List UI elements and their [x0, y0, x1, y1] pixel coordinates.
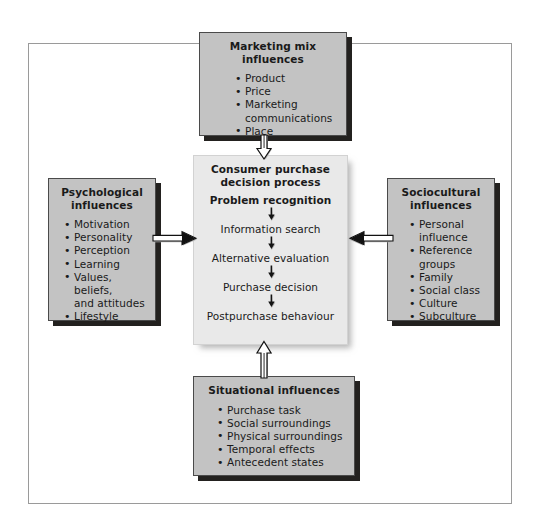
list-item: Personality: [63, 231, 147, 244]
box-title: Consumer purchase decision process: [202, 163, 339, 188]
connector-psychological-to-center: [153, 231, 199, 249]
list-item: Culture: [408, 297, 486, 310]
box-title: Psychological influences: [57, 186, 147, 211]
arrow-down-icon: [266, 236, 277, 251]
arrow-down-icon: [266, 294, 277, 309]
process-step-alternative-evaluation: Alternative evaluation: [202, 252, 339, 264]
arrow-right-icon: [153, 231, 199, 249]
arrow-down-icon: [266, 207, 277, 222]
list-item: Subculture: [408, 310, 486, 323]
connector-sociocultural-to-center: [347, 231, 393, 249]
diagram-frame: Marketing mix influences Product Price M…: [28, 43, 512, 504]
list-item: Reference groups: [408, 244, 486, 270]
sociocultural-influences-box: Sociocultural influences Personal influe…: [387, 178, 495, 321]
list-item: Personal influence: [408, 218, 486, 244]
process-arrow-3: [202, 264, 339, 281]
process-arrow-4: [202, 293, 339, 310]
process-step-purchase-decision: Purchase decision: [202, 281, 339, 293]
process-arrow-2: [202, 235, 339, 252]
list-item: Temporal effects: [216, 443, 346, 456]
list-item: Product: [234, 72, 338, 85]
list-item: Social surroundings: [216, 417, 346, 430]
process-arrow-1: [202, 206, 339, 223]
sociocultural-list: Personal influence Reference groups Fami…: [396, 218, 486, 324]
marketing-mix-list: Product Price Marketing communications P…: [208, 72, 338, 138]
list-item: Antecedent states: [216, 456, 346, 469]
psychological-list: Motivation Personality Perception Learni…: [57, 218, 147, 324]
list-item: Physical surroundings: [216, 430, 346, 443]
consumer-purchase-decision-process-box: Consumer purchase decision process Probl…: [193, 155, 348, 345]
list-item: Lifestyle: [63, 310, 147, 323]
list-item: Family: [408, 271, 486, 284]
process-step-information-search: Information search: [202, 223, 339, 235]
process-step-problem-recognition: Problem recognition: [202, 194, 339, 206]
list-item: Price: [234, 85, 338, 98]
box-title: Sociocultural influences: [396, 186, 486, 211]
arrow-down-icon: [266, 265, 277, 280]
box-title: Situational influences: [202, 384, 346, 397]
list-item: Marketing communications: [234, 98, 338, 124]
list-item: Place: [234, 125, 338, 138]
situational-list: Purchase task Social surroundings Physic…: [202, 404, 346, 470]
psychological-influences-box: Psychological influences Motivation Pers…: [48, 178, 156, 321]
connector-marketing-mix-to-center: [253, 135, 277, 161]
arrow-left-icon: [347, 231, 393, 249]
situational-influences-box: Situational influences Purchase task Soc…: [193, 376, 355, 476]
list-item: Learning: [63, 258, 147, 271]
list-item: Values, beliefs, and attitudes: [63, 271, 147, 311]
connector-situational-to-center: [253, 341, 277, 379]
process-step-postpurchase-behaviour: Postpurchase behaviour: [202, 310, 339, 322]
list-item: Motivation: [63, 218, 147, 231]
arrow-up-outline-icon: [253, 341, 277, 379]
box-title: Marketing mix influences: [208, 40, 338, 65]
arrow-down-outline-icon: [253, 135, 277, 161]
marketing-mix-influences-box: Marketing mix influences Product Price M…: [199, 32, 347, 136]
list-item: Social class: [408, 284, 486, 297]
list-item: Perception: [63, 244, 147, 257]
list-item: Purchase task: [216, 404, 346, 417]
